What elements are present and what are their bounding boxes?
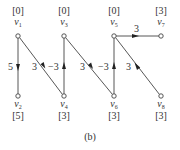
node-name-v2: v2	[14, 98, 21, 110]
graph-diagram: [0] v1 [0] v3 [0] v5 [3] v7 v2 [5] v4 [3…	[0, 0, 180, 150]
weight-v1-v2: 5	[8, 61, 13, 72]
figure-caption: (b)	[84, 131, 96, 143]
arrow-down-icon	[41, 62, 46, 69]
node-value-v8: [3]	[155, 110, 167, 121]
node-name-v3: v3	[60, 16, 67, 28]
node-v1	[16, 34, 20, 38]
node-name-v6: v6	[110, 98, 117, 110]
weight-v8-v5: 3	[126, 61, 131, 72]
node-v7	[159, 34, 163, 38]
arrow-right-icon	[132, 34, 139, 38]
node-value-v4: [3]	[58, 110, 70, 121]
top-labels: [0] v1 [0] v3 [0] v5 [3] v7	[12, 5, 167, 28]
weight-v5-v7: 3	[134, 23, 139, 34]
weight-v3-v6: 3	[80, 61, 85, 72]
arrow-up-icon	[112, 62, 116, 69]
node-v5	[112, 34, 116, 38]
node-name-v4: v4	[60, 98, 67, 110]
arrow-up-icon	[62, 62, 66, 69]
node-value-v3: [0]	[58, 5, 70, 16]
node-name-v1: v1	[14, 16, 21, 28]
arrow-down-icon	[16, 64, 20, 71]
weight-v6-v5: −3	[98, 61, 109, 72]
node-value-v7: [3]	[155, 5, 167, 16]
node-value-v5: [0]	[108, 5, 120, 16]
node-name-v8: v8	[157, 98, 164, 110]
bottom-labels: v2 [5] v4 [3] v6 [3] v8 [3]	[12, 98, 167, 121]
node-name-v5: v5	[110, 16, 117, 28]
weight-v4-v3: −3	[48, 61, 59, 72]
node-name-v7: v7	[157, 16, 164, 28]
node-v3	[62, 34, 66, 38]
node-value-v2: [5]	[12, 110, 24, 121]
node-value-v1: [0]	[12, 5, 24, 16]
weight-v1-v4: 3	[32, 61, 37, 72]
node-value-v6: [3]	[108, 110, 120, 121]
